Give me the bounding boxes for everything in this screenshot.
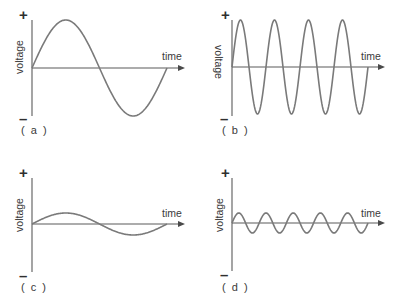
arrow-right-icon [178, 221, 185, 227]
plus-sign: + [19, 164, 28, 181]
arrow-right-icon [378, 64, 385, 70]
panel-caption: ( a ) [21, 124, 48, 136]
panel-caption: ( d ) [222, 281, 249, 293]
plus-sign: + [221, 164, 230, 181]
y-axis-label: voltage [213, 45, 225, 79]
plus-sign: + [221, 6, 230, 23]
x-axis-label: time [162, 207, 182, 219]
waveform-figure: + – voltage time ( a ) + – voltage time … [0, 0, 393, 305]
panel-caption: ( b ) [222, 124, 249, 136]
panel-caption: ( c ) [21, 281, 47, 293]
panel-c: + – voltage time ( c ) [13, 164, 185, 293]
x-axis-label: time [162, 50, 182, 62]
y-axis-label: voltage [13, 40, 25, 74]
arrow-right-icon [178, 65, 185, 71]
panel-a: + – voltage time ( a ) [13, 6, 185, 136]
panel-d: + – voltage time ( d ) [213, 164, 385, 293]
y-axis-label: voltage [213, 198, 225, 232]
x-axis-label: time [361, 207, 381, 219]
x-axis-label: time [361, 50, 381, 62]
plus-sign: + [19, 6, 28, 23]
arrow-right-icon [378, 220, 385, 226]
y-axis-label: voltage [13, 198, 25, 232]
panel-b: + – voltage time ( b ) [213, 6, 385, 136]
